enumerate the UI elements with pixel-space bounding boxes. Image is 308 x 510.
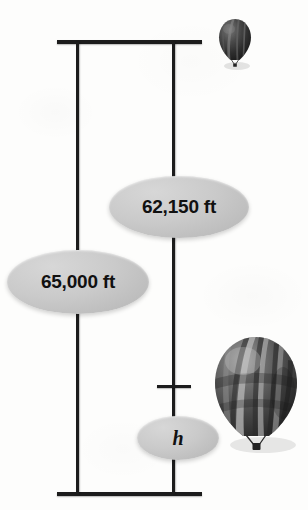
- hot-air-balloon-small: [216, 17, 254, 71]
- callout-label: 65,000 ft: [41, 271, 115, 293]
- hot-air-balloon-large: [209, 333, 305, 455]
- callout-upper-distance: 62,150 ft: [109, 176, 249, 238]
- diagram-canvas: 65,000 ft 62,150 ft h: [0, 0, 308, 510]
- callout-label: h: [172, 427, 183, 450]
- height-division-tick: [157, 385, 191, 388]
- callout-total-altitude: 65,000 ft: [7, 250, 149, 314]
- callout-unknown-height: h: [137, 416, 219, 460]
- callout-label: 62,150 ft: [142, 196, 216, 218]
